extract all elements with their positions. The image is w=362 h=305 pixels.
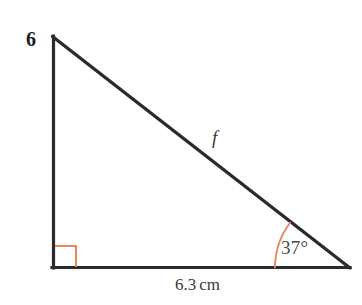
angle-label: 37° xyxy=(281,238,308,257)
right-angle-marker xyxy=(55,246,76,267)
base-length-label: 6.3cm xyxy=(175,276,220,293)
triangle-hypotenuse xyxy=(53,37,351,269)
figure-number-label: 6 xyxy=(26,29,36,49)
triangle-figure: 6 f 37° 6.3cm xyxy=(0,0,362,305)
hypotenuse-label: f xyxy=(212,128,217,147)
base-length-unit: cm xyxy=(199,275,220,294)
triangle-drawing xyxy=(0,0,362,305)
base-length-value: 6.3 xyxy=(175,275,196,294)
